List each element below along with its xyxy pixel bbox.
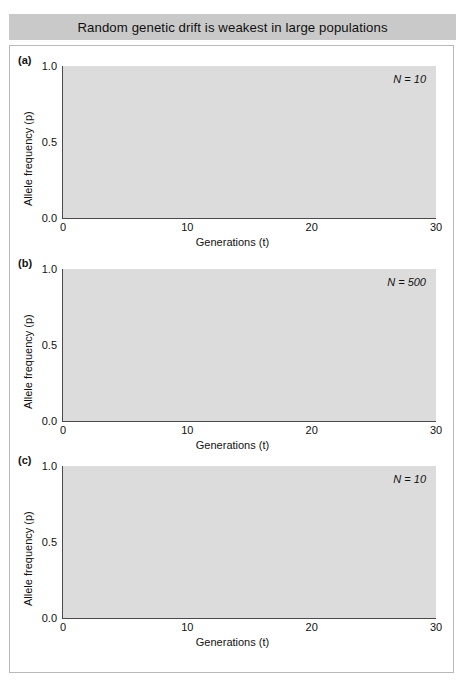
figure-genetic-drift: Random genetic drift is weakest in large… (0, 0, 466, 687)
panel-a-ytick-1: 1.0 (42, 60, 57, 72)
panel-a-annotation: N = 10 (393, 73, 426, 85)
panel-a-y-axis (62, 66, 63, 218)
panel-a-ylabel: Allele frequency (p) (22, 111, 34, 206)
panel-c-xlabel: Generations (t) (196, 636, 269, 648)
panel-a-xtick-0: 0 (60, 221, 66, 233)
panel-b-annotation: N = 500 (387, 276, 426, 288)
panel-a-plot: 1.0 0.5 0.0 0 10 20 30 N = 10 (63, 66, 436, 218)
panel-b-ytick-1: 1.0 (42, 263, 57, 275)
panel-c-plot-background (63, 466, 436, 618)
panel-a-xtick-30: 30 (430, 221, 442, 233)
panel-b-xtick-10: 10 (181, 424, 193, 436)
panel-a-x-axis (62, 218, 436, 219)
panel-c-xtick-30: 30 (430, 621, 442, 633)
panel-b-xtick-0: 0 (60, 424, 66, 436)
panel-b-x-axis (62, 421, 436, 422)
panel-b-plot-background (63, 269, 436, 421)
panel-c-xtick-10: 10 (181, 621, 193, 633)
panel-b-xtick-30: 30 (430, 424, 442, 436)
panel-a-ytick-0: 0.0 (42, 212, 57, 224)
panel-b-ylabel: Allele frequency (p) (22, 314, 34, 409)
panel-c-ytick-05: 0.5 (42, 536, 57, 548)
panel-c-annotation: N = 10 (393, 473, 426, 485)
panel-a-letter: (a) (18, 54, 31, 66)
figure-frame: (a) 1.0 0.5 0.0 0 10 20 30 N = 10 Allele… (9, 45, 454, 673)
panel-a-plot-background (63, 66, 436, 218)
panel-c: (c) 1.0 0.5 0.0 0 10 20 30 N = 10 Allele… (10, 446, 455, 672)
panel-a: (a) 1.0 0.5 0.0 0 10 20 30 N = 10 Allele… (10, 46, 455, 251)
panel-c-letter: (c) (18, 454, 31, 466)
panel-b-letter: (b) (18, 257, 32, 269)
panel-c-plot: 1.0 0.5 0.0 0 10 20 30 N = 10 (63, 466, 436, 618)
panel-c-ytick-0: 0.0 (42, 612, 57, 624)
figure-title-bar: Random genetic drift is weakest in large… (9, 14, 456, 40)
panel-a-xtick-20: 20 (306, 221, 318, 233)
panel-a-xlabel: Generations (t) (196, 236, 269, 248)
page-title: Random genetic drift is weakest in large… (77, 20, 387, 35)
panel-b-ytick-05: 0.5 (42, 339, 57, 351)
panel-a-xtick-10: 10 (181, 221, 193, 233)
panel-c-x-axis (62, 618, 436, 619)
panel-c-ytick-1: 1.0 (42, 460, 57, 472)
panel-a-ytick-05: 0.5 (42, 136, 57, 148)
panel-b-plot: 1.0 0.5 0.0 0 10 20 30 N = 500 (63, 269, 436, 421)
panel-b: (b) 1.0 0.5 0.0 0 10 20 30 N = 500 Allel… (10, 249, 455, 454)
panel-c-xtick-20: 20 (306, 621, 318, 633)
panel-b-y-axis (62, 269, 63, 421)
panel-b-xtick-20: 20 (306, 424, 318, 436)
panel-c-y-axis (62, 466, 63, 618)
panel-b-ytick-0: 0.0 (42, 415, 57, 427)
panel-c-ylabel: Allele frequency (p) (22, 511, 34, 606)
panel-c-xtick-0: 0 (60, 621, 66, 633)
